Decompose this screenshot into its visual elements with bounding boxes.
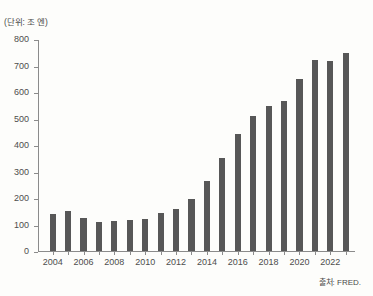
x-axis-tick-label: 2006: [73, 257, 93, 267]
y-axis-tick-label: 200: [14, 193, 29, 203]
x-axis-tick-label: 2016: [228, 257, 248, 267]
bar: [173, 209, 179, 251]
y-axis-tick: 800: [34, 40, 38, 41]
bar: [343, 53, 349, 251]
y-axis-tick-label: 800: [14, 34, 29, 44]
bar: [188, 199, 194, 251]
x-axis-tick: [145, 252, 146, 255]
bar: [266, 106, 272, 251]
y-axis-line: [38, 40, 39, 252]
y-axis-tick: 200: [34, 199, 38, 200]
x-axis-tick: [53, 252, 54, 255]
y-axis-tick: 400: [34, 146, 38, 147]
x-axis-tick-label: 2012: [166, 257, 186, 267]
unit-label: (단위: 조 엔): [4, 15, 48, 27]
x-axis-tick-label: 2014: [197, 257, 217, 267]
x-axis-tick: [346, 252, 347, 255]
y-axis-tick-label: 600: [14, 87, 29, 97]
x-axis-line: [38, 251, 355, 252]
bar: [281, 101, 287, 251]
x-axis-tick: [114, 252, 115, 255]
y-axis-tick: 0: [34, 252, 38, 253]
y-axis-tick: 700: [34, 67, 38, 68]
bar: [235, 134, 241, 251]
x-axis-tick-label: 2008: [104, 257, 124, 267]
bar: [219, 158, 225, 251]
y-axis-tick-label: 100: [14, 220, 29, 230]
x-axis-tick: [191, 252, 192, 255]
bar: [142, 219, 148, 251]
x-axis-tick: [253, 252, 254, 255]
source-note: 출처: FRED.: [319, 276, 361, 287]
y-axis-tick-label: 400: [14, 140, 29, 150]
bar: [312, 60, 318, 251]
x-axis-tick: [284, 252, 285, 255]
x-axis-tick: [330, 252, 331, 255]
chart-page: (단위: 조 엔) 0100200300400500600700800 2004…: [0, 0, 373, 296]
x-axis-tick: [176, 252, 177, 255]
x-axis-tick-label: 2018: [259, 257, 279, 267]
x-axis-tick-label: 2010: [135, 257, 155, 267]
y-axis-tick-label: 0: [24, 246, 29, 256]
y-axis-tick-label: 500: [14, 114, 29, 124]
bar: [204, 181, 210, 251]
x-axis-tick: [238, 252, 239, 255]
bar: [158, 213, 164, 251]
y-axis-tick: 600: [34, 93, 38, 94]
x-axis-tick-label: 2020: [289, 257, 309, 267]
bar: [127, 220, 133, 251]
y-axis-tick: 100: [34, 226, 38, 227]
cut-off-title: [22, 0, 172, 7]
y-axis-tick: 500: [34, 120, 38, 121]
y-axis-tick-label: 700: [14, 61, 29, 71]
bar: [327, 61, 333, 251]
bar: [96, 222, 102, 251]
bar: [296, 79, 302, 251]
plot-area: 0100200300400500600700800 20042006200820…: [38, 40, 355, 252]
x-axis-tick: [315, 252, 316, 255]
x-axis-tick: [269, 252, 270, 255]
x-axis-tick-label: 2004: [43, 257, 63, 267]
x-axis-tick: [68, 252, 69, 255]
x-axis-tick: [222, 252, 223, 255]
bar: [111, 221, 117, 251]
x-axis-tick: [161, 252, 162, 255]
x-axis-tick: [207, 252, 208, 255]
x-axis-tick-label: 2022: [320, 257, 340, 267]
bar: [50, 214, 56, 251]
x-axis-tick: [84, 252, 85, 255]
bar: [80, 218, 86, 251]
x-axis-tick: [130, 252, 131, 255]
x-axis-tick: [99, 252, 100, 255]
y-axis-tick: 300: [34, 173, 38, 174]
bar: [250, 116, 256, 251]
bar: [65, 211, 71, 251]
x-axis-tick: [299, 252, 300, 255]
y-axis-tick-label: 300: [14, 167, 29, 177]
